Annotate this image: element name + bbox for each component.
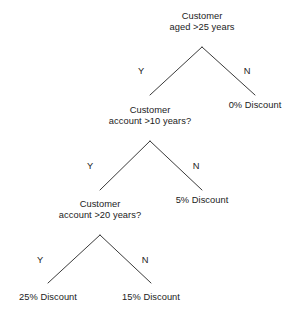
branch-label-level3-no: N xyxy=(142,255,149,265)
edge-root-yes xyxy=(150,47,202,95)
branch-label-root-no: N xyxy=(244,66,251,76)
node-root-line2: aged >25 years xyxy=(169,22,234,33)
edge-level2-yes xyxy=(100,141,150,190)
decision-tree-diagram: Customer aged >25 years Customer account… xyxy=(0,0,295,323)
branch-label-level2-no: N xyxy=(193,161,200,171)
branch-label-root-yes: Y xyxy=(138,66,144,76)
branch-label-level3-yes: Y xyxy=(37,255,43,265)
tree-edges-group xyxy=(0,0,295,323)
node-account-10-years: Customer account >10 years? xyxy=(109,105,191,128)
node-account-20-years-line2: account >20 years? xyxy=(59,210,141,221)
leaf-5-percent-discount: 5% Discount xyxy=(176,195,229,206)
branch-label-level2-yes: Y xyxy=(87,161,93,171)
node-account-20-years: Customer account >20 years? xyxy=(59,199,141,222)
node-root-line1: Customer xyxy=(182,11,223,21)
leaf-25-percent-discount: 25% Discount xyxy=(19,292,77,303)
node-account-20-years-line1: Customer xyxy=(80,199,121,209)
edge-level3-yes xyxy=(48,235,100,283)
node-account-10-years-line1: Customer xyxy=(130,105,171,115)
leaf-0-percent-discount: 0% Discount xyxy=(229,100,282,111)
leaf-15-percent-discount: 15% Discount xyxy=(122,292,180,303)
node-account-10-years-line2: account >10 years? xyxy=(109,116,191,127)
node-root: Customer aged >25 years xyxy=(169,11,234,34)
